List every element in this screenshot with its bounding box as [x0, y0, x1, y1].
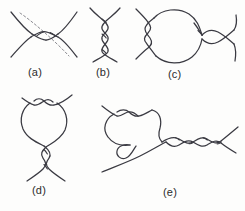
strand-c-right-tail-down: [234, 44, 236, 61]
strand-d-braid-b: [27, 147, 46, 181]
panel-e-caption: (e): [163, 186, 177, 198]
strand-upper-left: [11, 12, 32, 34]
dashed-guide-line: [20, 13, 69, 56]
strand-c-loop-top: [154, 10, 202, 35]
figure-root: (a) (b): [0, 0, 245, 211]
panel-b-diagram: [84, 6, 128, 64]
panel-d-caption: (d): [32, 184, 46, 196]
strand-lower-right: [58, 12, 77, 34]
strand-e-lower-tail: [102, 142, 166, 172]
strand-b-left: [90, 8, 108, 62]
crossing-d-1: [44, 150, 47, 155]
strand-e-top-tail: [102, 106, 117, 116]
crossing-e-3: [203, 138, 207, 140]
strand-c-left-upper: [136, 9, 148, 22]
strand-e-loop-left: [105, 114, 130, 145]
strand-c-loop-bottom: [156, 39, 202, 63]
strand-d-loop-left: [21, 103, 44, 146]
panel-a-diagram: [6, 6, 82, 64]
strand-b-right: [102, 8, 120, 62]
strand-d-loop-right: [46, 103, 67, 147]
strand-e-braid-a: [162, 127, 238, 143]
strand-e-right-bend: [152, 110, 162, 142]
strand-c-right-tail-up: [234, 15, 236, 30]
panel-e-diagram: [100, 100, 242, 182]
strand-e-top-twist-3: [139, 110, 152, 116]
panel-d: (d): [16, 92, 94, 184]
panel-c: (c): [132, 5, 240, 67]
panel-c-diagram: [132, 5, 240, 67]
panel-d-diagram: [16, 92, 94, 184]
strand-upper-right: [58, 37, 77, 57]
panel-e: (e): [100, 100, 242, 182]
panel-c-caption: (c): [168, 68, 181, 80]
strand-e-curl: [117, 145, 136, 159]
strand-d-braid-a: [44, 146, 65, 181]
panel-a: (a): [6, 6, 82, 64]
strand-lower-left: [11, 37, 31, 57]
panel-b-caption: (b): [96, 66, 110, 78]
strand-e-braid-b: [166, 141, 236, 153]
panel-a-caption: (a): [28, 66, 42, 78]
crossing-overpass-b: [50, 33, 57, 37]
panel-b: (b): [84, 6, 128, 64]
